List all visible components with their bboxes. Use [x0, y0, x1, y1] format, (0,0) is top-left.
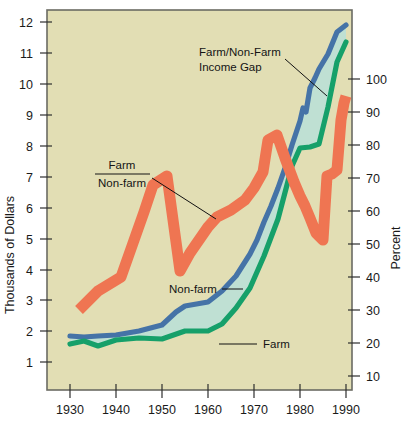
y-tick-label-3: 3 — [26, 294, 33, 308]
gap-annotation-line-2: Income Gap — [199, 61, 262, 73]
y2-tick-label-10: 10 — [366, 370, 380, 384]
gap-annotation-line-1: Farm/Non-Farm — [199, 46, 281, 58]
y-axis-title: Thousands of Dollars — [3, 196, 17, 314]
ratio-annotation-denominator: Non-farm — [98, 177, 146, 189]
y2-axis-title: Percent — [389, 226, 403, 270]
nonfarm-annotation-label: Non-farm — [169, 283, 217, 295]
y-tick-label-4: 4 — [26, 264, 33, 278]
y2-tick-label-90: 90 — [366, 106, 380, 120]
y2-tick-label-50: 50 — [366, 238, 380, 252]
y-tick-label-9: 9 — [26, 109, 33, 123]
chart-canvas: 12 11 10 9 8 7 6 5 4 3 2 1 Thousands of … — [0, 0, 408, 421]
x-tick-label-1950: 1950 — [148, 403, 176, 417]
y2-tick-label-70: 70 — [366, 172, 380, 186]
y2-tick-label-30: 30 — [366, 304, 380, 318]
chart-figure: 12 11 10 9 8 7 6 5 4 3 2 1 Thousands of … — [0, 0, 408, 421]
y-tick-label-11: 11 — [20, 47, 33, 61]
y-tick-label-8: 8 — [26, 140, 33, 154]
x-tick-label-1970: 1970 — [240, 403, 268, 417]
x-tick-label-1960: 1960 — [194, 403, 222, 417]
y-tick-label-6: 6 — [26, 202, 33, 216]
y-tick-label-5: 5 — [26, 233, 33, 247]
y-tick-label-1: 1 — [26, 356, 33, 370]
ratio-annotation-numerator: Farm — [109, 159, 136, 171]
y-tick-label-10: 10 — [19, 78, 33, 92]
x-tick-label-1930: 1930 — [56, 403, 84, 417]
x-tick-label-1940: 1940 — [102, 403, 130, 417]
y2-tick-label-80: 80 — [366, 139, 380, 153]
y2-tick-label-40: 40 — [366, 271, 380, 285]
x-tick-label-1990: 1990 — [332, 403, 360, 417]
x-tick-label-1980: 1980 — [286, 403, 314, 417]
farm-annotation-label: Farm — [263, 338, 290, 350]
y-axis-right: 100 90 80 70 60 50 40 30 20 10 — [348, 73, 387, 384]
y-tick-label-12: 12 — [19, 16, 33, 30]
y-tick-label-7: 7 — [26, 171, 33, 185]
y-tick-label-2: 2 — [26, 325, 33, 339]
y2-tick-label-100: 100 — [366, 73, 387, 87]
y2-tick-label-20: 20 — [366, 337, 380, 351]
y2-tick-label-60: 60 — [366, 205, 380, 219]
